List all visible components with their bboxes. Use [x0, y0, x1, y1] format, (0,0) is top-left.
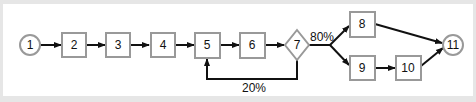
svg-text:3: 3	[115, 38, 122, 52]
node-11: 11	[443, 35, 463, 55]
svg-text:1: 1	[27, 38, 34, 52]
node-8: 8	[350, 12, 375, 37]
svg-text:2: 2	[71, 38, 78, 52]
node-2: 2	[62, 33, 86, 57]
node-1: 1	[20, 35, 40, 55]
edge-label-80-percent: 80%	[310, 30, 334, 44]
node-5: 5	[195, 33, 220, 58]
svg-text:11: 11	[447, 38, 460, 52]
svg-text:9: 9	[359, 61, 366, 75]
svg-text:6: 6	[249, 38, 256, 52]
node-6: 6	[240, 33, 265, 58]
svg-text:10: 10	[401, 61, 415, 75]
edge-8-11	[375, 24, 442, 43]
node-3: 3	[106, 33, 130, 57]
node-7-decision: 7	[285, 30, 309, 60]
edge-10-11	[421, 48, 443, 66]
edge-7-5-feedback	[207, 59, 297, 79]
process-flow-diagram: 1 2 3 4 5 6 7 8	[0, 0, 476, 102]
svg-text:5: 5	[204, 38, 211, 52]
node-10: 10	[396, 56, 421, 80]
svg-text:7: 7	[294, 38, 301, 52]
edge-7-9	[330, 45, 349, 65]
svg-text:4: 4	[160, 38, 167, 52]
node-4: 4	[151, 33, 175, 57]
nodes: 1 2 3 4 5 6 7 8	[20, 12, 463, 80]
svg-text:8: 8	[359, 17, 366, 31]
edge-label-20-percent: 20%	[242, 81, 266, 95]
node-9: 9	[350, 56, 375, 80]
